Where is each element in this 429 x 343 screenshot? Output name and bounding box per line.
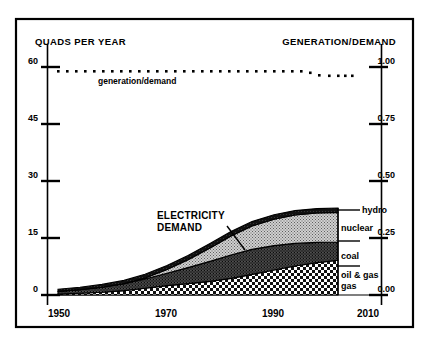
x-tick-label-1970: 1970 — [155, 308, 178, 319]
x-tick-label-2010: 2010 — [357, 308, 380, 319]
legend-label-nuclear: nuclear — [341, 223, 374, 233]
left-tick-label-0: 0 — [33, 284, 38, 294]
right-axis-title: GENERATION/DEMAND — [282, 36, 396, 47]
right-tick-label-0-50: 0.50 — [377, 170, 395, 180]
left-tick-label-60: 60 — [28, 56, 38, 66]
right-tick-label-0-25: 0.25 — [377, 227, 395, 237]
chart-svg: QUADS PER YEAR GENERATION/DEMAND 60 45 3… — [0, 0, 429, 343]
left-tick-label-45: 45 — [28, 113, 38, 123]
chart-figure: QUADS PER YEAR GENERATION/DEMAND 60 45 3… — [0, 0, 429, 343]
electricity-demand-label-line1: ELECTRICITY — [157, 210, 225, 221]
legend-label-oil-gas-line1: oil & gas — [341, 270, 379, 280]
legend-label-hydro: hydro — [362, 205, 388, 215]
right-tick-label-1-00: 1.00 — [377, 56, 395, 66]
right-tick-label-0-00: 0.00 — [377, 284, 395, 294]
left-tick-label-15: 15 — [28, 227, 38, 237]
legend-label-oil-gas-line2: gas — [341, 281, 357, 291]
right-tick-label-0-75: 0.75 — [377, 113, 395, 123]
left-tick-label-30: 30 — [28, 170, 38, 180]
left-axis-title: QUADS PER YEAR — [35, 36, 126, 47]
electricity-demand-label-line2: DEMAND — [157, 222, 202, 233]
x-tick-label-1990: 1990 — [262, 308, 285, 319]
legend-label-coal: coal — [341, 251, 359, 261]
x-tick-label-1950: 1950 — [48, 308, 71, 319]
generation-demand-series-label: generation/demand — [98, 76, 176, 86]
